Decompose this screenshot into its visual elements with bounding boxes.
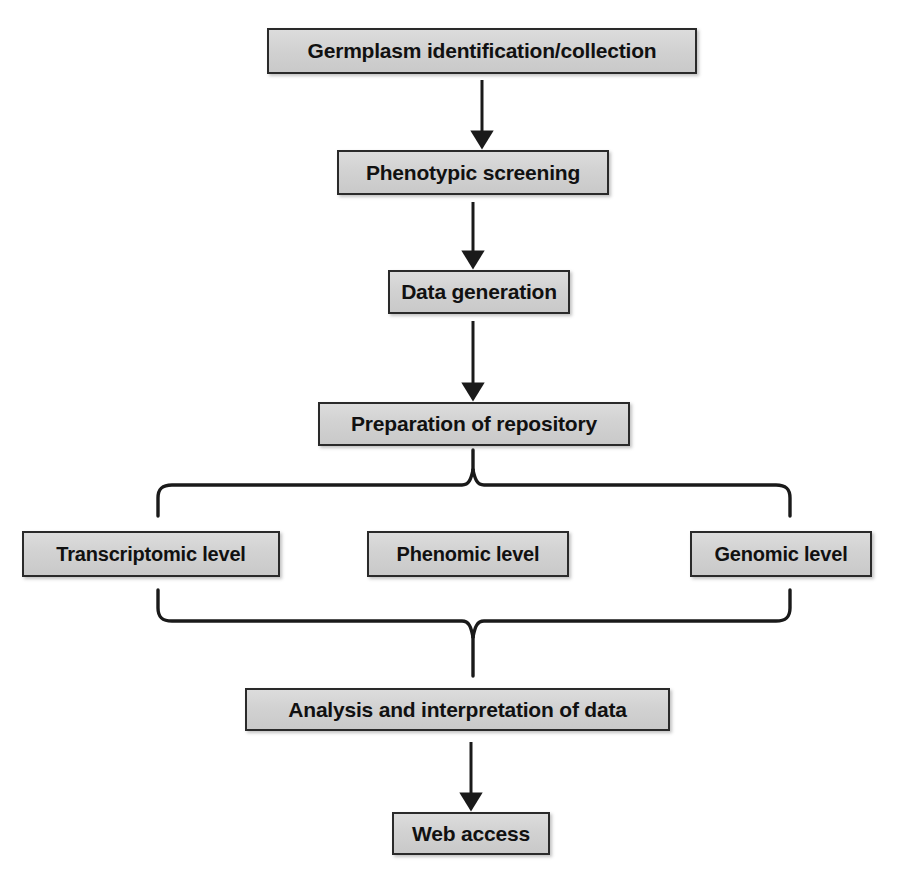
connector-repository-split-brace (158, 450, 790, 516)
node-web-access[interactable]: Web access (392, 812, 550, 855)
node-genomic-level[interactable]: Genomic level (690, 531, 872, 577)
connector-levels-merge-brace (158, 590, 790, 676)
flowchart-diagram: Germplasm identification/collection Phen… (0, 0, 897, 881)
node-phenomic-level[interactable]: Phenomic level (367, 531, 569, 577)
node-data-generation[interactable]: Data generation (388, 270, 570, 314)
node-analysis-and-interpretation-of-data[interactable]: Analysis and interpretation of data (245, 688, 670, 731)
node-phenotypic-screening[interactable]: Phenotypic screening (337, 150, 609, 195)
node-transcriptomic-level[interactable]: Transcriptomic level (22, 531, 280, 577)
node-preparation-of-repository[interactable]: Preparation of repository (318, 402, 630, 446)
node-germplasm-identification-collection[interactable]: Germplasm identification/collection (267, 28, 697, 74)
